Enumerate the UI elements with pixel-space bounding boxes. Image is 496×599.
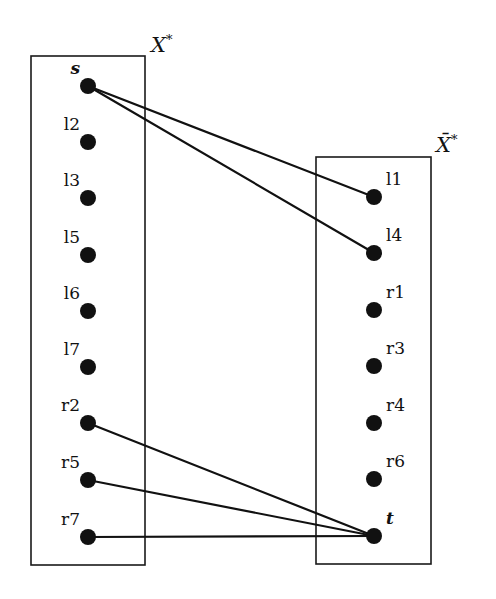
node-s [80,78,96,94]
node-l3 [80,190,96,206]
node-l1 [366,189,382,205]
node-label-l6: l6 [64,283,80,303]
node-label-l1: l1 [386,169,402,189]
edges-group [88,86,374,537]
node-r4 [366,415,382,431]
edge-r7-t [88,536,374,537]
node-label-r3: r3 [386,338,405,358]
node-label-s: s [69,58,80,78]
node-label-l2: l2 [64,114,80,134]
node-r7 [80,529,96,545]
node-l6 [80,303,96,319]
node-label-l4: l4 [386,225,402,245]
node-label-r4: r4 [386,395,405,415]
node-r6 [366,471,382,487]
cut-diagram: X* X̄* sl2l3l5l6l7r2r5r7l1l4r1r3r4r6t [0,0,496,599]
node-l7 [80,359,96,375]
node-l5 [80,247,96,263]
set-x-bar-star-label: X̄* [434,132,458,157]
node-r3 [366,358,382,374]
edge-r5-t [88,480,374,536]
node-label-l7: l7 [64,339,80,359]
node-labels-group: sl2l3l5l6l7r2r5r7l1l4r1r3r4r6t [61,58,405,529]
edge-r2-t [88,423,374,536]
node-t [366,528,382,544]
node-r2 [80,415,96,431]
node-label-l5: l5 [64,227,80,247]
node-l4 [366,245,382,261]
nodes-group [80,78,382,545]
node-r5 [80,472,96,488]
node-label-t: t [386,508,394,528]
node-r1 [366,302,382,318]
node-label-l3: l3 [64,170,80,190]
set-x-star-label: X* [149,32,173,57]
node-label-r5: r5 [61,452,80,472]
node-l2 [80,134,96,150]
edge-s-l1 [88,86,374,197]
edge-s-l4 [88,86,374,253]
node-label-r6: r6 [386,451,405,471]
node-label-r2: r2 [61,395,80,415]
node-label-r7: r7 [61,509,80,529]
node-label-r1: r1 [386,282,405,302]
